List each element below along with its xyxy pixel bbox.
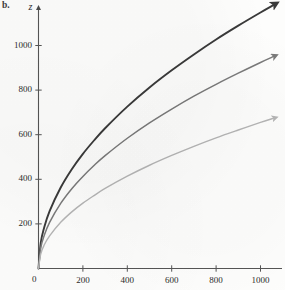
x-tick-label: 400 xyxy=(107,276,147,285)
curve-lower-curve xyxy=(39,118,274,268)
data-curves xyxy=(39,5,274,269)
y-tick-label: 600 xyxy=(0,130,32,139)
chart-figure: b. z 0 2004006008001000 2004006008001000 xyxy=(0,0,285,290)
y-tick-label: 200 xyxy=(0,219,32,228)
y-axis-label: z xyxy=(29,2,33,12)
x-tick-label: 800 xyxy=(196,276,236,285)
curve-upper-curve xyxy=(39,5,274,269)
y-tick-label: 400 xyxy=(0,174,32,183)
y-tick-label: 800 xyxy=(0,85,32,94)
y-tick-label: 1000 xyxy=(0,41,32,50)
plot-area xyxy=(0,0,285,290)
x-tick-label: 200 xyxy=(63,276,103,285)
axis-lines xyxy=(39,9,283,269)
origin-tick-label: 0 xyxy=(25,275,37,284)
x-tick-label: 1000 xyxy=(241,276,281,285)
x-tick-label: 600 xyxy=(152,276,192,285)
